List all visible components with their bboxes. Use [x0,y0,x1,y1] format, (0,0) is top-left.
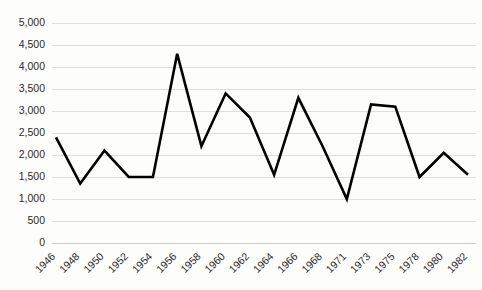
x-axis-tick-label: 1975 [372,250,397,275]
y-axis-tick-label: 2,000 [19,148,45,160]
y-axis-tick-label: 500 [27,214,45,226]
x-axis-tick-label: 1954 [129,250,154,275]
x-axis-tick-labels: 1946194819501952195419561958196019621964… [32,250,469,275]
x-axis-tick-label: 1968 [299,250,324,275]
x-axis-tick-label: 1971 [323,250,348,275]
y-axis-tick-label: 3,500 [19,82,45,94]
x-axis-tick-label: 1962 [226,250,251,275]
x-axis-tick-label: 1950 [81,250,106,275]
x-axis-tick-label: 1973 [347,250,372,275]
y-axis-tick-label: 5,000 [19,16,45,28]
x-axis-tick-label: 1948 [57,250,82,275]
y-axis-tick-label: 1,000 [19,192,45,204]
x-axis-tick-label: 1952 [105,250,130,275]
x-axis-tick-label: 1956 [154,250,179,275]
y-axis-tick-labels: 05001,0001,5002,0002,5003,0003,5004,0004… [19,16,45,248]
x-axis-tick-label: 1980 [420,250,445,275]
y-axis-tick-label: 2,500 [19,126,45,138]
line-chart-figure: 05001,0001,5002,0002,5003,0003,5004,0004… [0,0,482,290]
x-axis-tick-label: 1960 [202,250,227,275]
gridlines-group [52,23,476,243]
x-axis-tick-label: 1958 [178,250,203,275]
x-axis-tick-label: 1966 [275,250,300,275]
y-axis-tick-label: 4,000 [19,60,45,72]
y-axis-tick-label: 4,500 [19,38,45,50]
x-axis-tick-label: 1982 [444,250,469,275]
y-axis-tick-label: 1,500 [19,170,45,182]
y-axis-tick-label: 3,000 [19,104,45,116]
x-axis-tick-label: 1964 [251,250,276,275]
y-axis-tick-label: 0 [39,236,45,248]
x-axis-tick-label: 1946 [32,250,57,275]
chart-canvas: 05001,0001,5002,0002,5003,0003,5004,0004… [0,0,482,290]
x-axis-tick-label: 1978 [396,250,421,275]
